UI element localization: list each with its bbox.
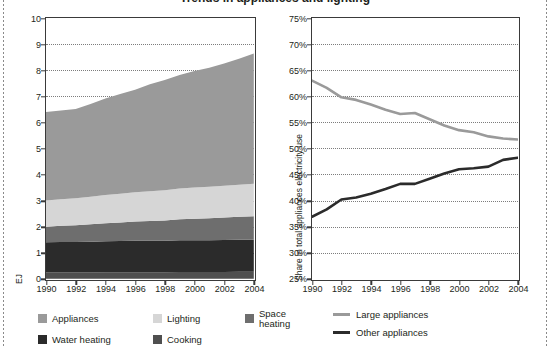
right-chart-plot-area bbox=[311, 17, 520, 281]
left-chart-legend: AppliancesLightingSpace heatingWater hea… bbox=[38, 309, 288, 345]
legend-item-large-appliances[interactable]: Large appliances bbox=[333, 310, 523, 320]
right-chart-y-tick-label: 50% bbox=[289, 145, 307, 154]
left-chart-y-tick-label: 4 bbox=[36, 171, 41, 180]
figure-title: Trends in appliances and lighting bbox=[0, 0, 550, 5]
legend-line-icon bbox=[333, 313, 350, 316]
left-chart-y-tick-label: 6 bbox=[36, 118, 41, 127]
left-chart-x-tick-label: 1994 bbox=[96, 285, 116, 294]
right-chart-x-tick-label: 1992 bbox=[332, 285, 352, 294]
legend-item-other-appliances[interactable]: Other appliances bbox=[333, 328, 523, 338]
left-chart-x-tick-label: 1990 bbox=[37, 285, 57, 294]
page-edge-rule-right bbox=[546, 0, 547, 348]
left-chart-x-tick-label: 2004 bbox=[244, 285, 264, 294]
legend-item-lighting[interactable]: Lighting bbox=[153, 309, 245, 328]
left-chart-y-tick-label: 7 bbox=[36, 92, 41, 101]
page-edge-rule-left bbox=[3, 0, 4, 348]
legend-item-cooking[interactable]: Cooking bbox=[153, 335, 245, 345]
right-chart-x-tick-label: 1994 bbox=[361, 285, 381, 294]
left-chart-y-tick-label: 5 bbox=[36, 145, 41, 154]
left-chart-x-tick-label: 2000 bbox=[185, 285, 205, 294]
right-chart-x-tick-label: 2004 bbox=[508, 285, 528, 294]
right-chart-y-tick-label: 30% bbox=[289, 249, 307, 258]
left-chart-x-tick-label: 2002 bbox=[215, 285, 235, 294]
left-chart-y-tick-label: 8 bbox=[36, 66, 41, 75]
right-chart-y-tick-label: 60% bbox=[289, 92, 307, 101]
legend-swatch-icon bbox=[38, 335, 47, 344]
legend-item-label: Water heating bbox=[52, 335, 111, 345]
left-chart-y-tick-label: 9 bbox=[36, 40, 41, 49]
area-series-appliances bbox=[46, 53, 254, 200]
legend-item-water-heating[interactable]: Water heating bbox=[38, 335, 153, 345]
right-chart-data-layer bbox=[312, 18, 518, 279]
right-chart-y-tick-label: 45% bbox=[289, 171, 307, 180]
legend-swatch-icon bbox=[245, 314, 254, 323]
right-chart-y-tick-label: 75% bbox=[289, 14, 307, 23]
legend-item-label: Other appliances bbox=[356, 328, 428, 338]
legend-item-label: Lighting bbox=[167, 314, 200, 324]
left-chart-y-tick-label: 1 bbox=[36, 249, 41, 258]
left-chart-y-tick-label: 3 bbox=[36, 197, 41, 206]
right-chart-legend: Large appliancesOther appliances bbox=[333, 310, 523, 337]
area-series-cooking bbox=[46, 272, 254, 279]
right-chart-x-tick-label: 2000 bbox=[450, 285, 470, 294]
right-chart-y-tick-label: 65% bbox=[289, 66, 307, 75]
left-chart-data-layer bbox=[46, 18, 254, 279]
left-chart-y-tick-label: 2 bbox=[36, 223, 41, 232]
left-chart-y-tick-label: 10 bbox=[31, 14, 41, 23]
right-chart-y-axis-title: Share in total appliances electricity us… bbox=[294, 134, 304, 281]
right-chart-y-tick-label: 40% bbox=[289, 197, 307, 206]
right-chart-x-tick-label: 2002 bbox=[479, 285, 499, 294]
legend-item-appliances[interactable]: Appliances bbox=[38, 309, 153, 328]
right-chart-y-tick-label: 25% bbox=[289, 275, 307, 284]
legend-item-label: Appliances bbox=[52, 314, 98, 324]
legend-item-label: Space heating bbox=[259, 309, 290, 328]
right-chart-y-tick-label: 55% bbox=[289, 118, 307, 127]
right-chart-x-tick-label: 1990 bbox=[303, 285, 323, 294]
right-chart-y-tick-label: 70% bbox=[289, 40, 307, 49]
legend-item-label: Cooking bbox=[167, 335, 202, 345]
right-chart-x-tick-label: 1998 bbox=[420, 285, 440, 294]
legend-swatch-icon bbox=[153, 335, 162, 344]
left-chart-plot-area bbox=[45, 17, 256, 281]
left-chart-y-tick-label: 0 bbox=[36, 275, 41, 284]
legend-swatch-icon bbox=[38, 314, 47, 323]
left-chart-x-tick-label: 1992 bbox=[66, 285, 86, 294]
left-chart-x-tick-label: 1998 bbox=[155, 285, 175, 294]
right-chart-x-tick-label: 1996 bbox=[391, 285, 411, 294]
legend-line-icon bbox=[333, 331, 350, 334]
left-chart-y-axis-title: EJ bbox=[14, 274, 24, 284]
legend-item-label: Large appliances bbox=[356, 310, 428, 320]
left-chart-x-tick-label: 1996 bbox=[126, 285, 146, 294]
legend-item-space-heating[interactable]: Space heating bbox=[245, 309, 290, 328]
line-series-large-appliances bbox=[312, 81, 518, 140]
line-series-other-appliances bbox=[312, 158, 518, 217]
legend-swatch-icon bbox=[153, 314, 162, 323]
area-series-water-heating bbox=[46, 240, 254, 273]
right-chart-y-tick-label: 35% bbox=[289, 223, 307, 232]
